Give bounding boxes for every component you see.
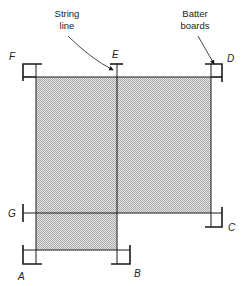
footprint-right xyxy=(117,77,211,213)
point-label-b: B xyxy=(134,268,141,279)
shaded-footprint xyxy=(36,77,211,250)
batter-board-diagram: String line Batter boards F E D G C A B xyxy=(0,0,241,286)
point-label-e: E xyxy=(112,49,119,60)
string-line-arrow xyxy=(68,36,113,70)
point-label-d: D xyxy=(227,53,234,64)
string-line-label-2: line xyxy=(60,20,75,31)
footprint-left xyxy=(36,77,117,250)
point-label-c: C xyxy=(228,222,236,233)
string-line-label-1: String xyxy=(55,8,80,19)
point-label-g: G xyxy=(8,208,16,219)
batter-boards-arrow xyxy=(198,36,214,64)
annotation-arrows xyxy=(68,36,214,70)
point-label-f: F xyxy=(9,51,16,62)
point-label-a: A xyxy=(17,271,25,282)
batter-boards-label-1: Batter xyxy=(182,8,207,19)
batter-boards-label-2: boards xyxy=(180,20,209,31)
